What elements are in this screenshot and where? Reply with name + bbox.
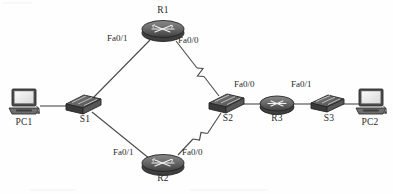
node-label-r1: R1 — [150, 6, 176, 16]
node-label-r3: R3 — [264, 114, 290, 124]
switch-icon — [311, 95, 344, 112]
node-label-pc2: PC2 — [356, 118, 384, 128]
interface-label-r1-fa01: Fa0/1 — [107, 34, 128, 43]
topology-canvas — [0, 0, 393, 194]
serial-zigzag-icon-r1-s2 — [197, 68, 204, 77]
link-r1-s2-seg1 — [176, 41, 197, 68]
interface-label-r1-fa00: Fa0/0 — [178, 36, 199, 45]
pc-icon — [356, 89, 387, 114]
scan-artifact — [190, 189, 268, 191]
pc-icon — [9, 89, 40, 114]
interface-label-r2-fa00: Fa0/0 — [182, 148, 203, 157]
node-pc1[interactable] — [9, 89, 40, 114]
node-s2[interactable] — [209, 94, 244, 113]
network-topology-diagram: PC1 S1 R1 R2 S2 R3 S3 PC2 Fa0/1 Fa0/0 Fa… — [0, 0, 393, 194]
node-label-s2: S2 — [215, 114, 241, 124]
link-r1-s2-seg2 — [204, 77, 219, 97]
switch-icon — [66, 95, 101, 114]
node-pc2[interactable] — [356, 89, 387, 114]
interface-label-r3-fa01: Fa0/1 — [291, 80, 312, 89]
node-label-r2: R2 — [150, 174, 176, 184]
node-s3[interactable] — [311, 95, 344, 112]
switch-icon — [209, 94, 244, 113]
node-label-s1: S1 — [72, 115, 98, 125]
interface-label-r3-fa00: Fa0/0 — [234, 80, 255, 89]
link-s1-r1 — [92, 40, 150, 99]
scan-artifact — [2, 2, 32, 4]
node-r3[interactable] — [260, 96, 294, 115]
scan-artifact — [30, 189, 76, 191]
node-label-s3: S3 — [316, 114, 342, 124]
node-label-pc1: PC1 — [10, 118, 38, 128]
interface-label-r2-fa01: Fa0/1 — [113, 148, 134, 157]
node-s1[interactable] — [66, 95, 101, 114]
serial-zigzag-icon-r2-s2 — [193, 133, 208, 141]
router-icon — [260, 96, 294, 115]
